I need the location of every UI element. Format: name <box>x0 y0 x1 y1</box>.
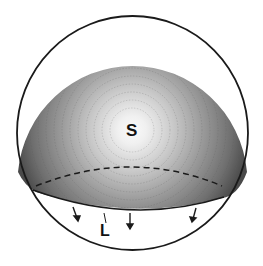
arrow-icon <box>190 208 196 222</box>
arrow-icon <box>73 207 80 221</box>
edge-label-l: L <box>100 222 110 240</box>
center-label-s: S <box>126 121 137 141</box>
arrow-icon <box>127 213 133 229</box>
